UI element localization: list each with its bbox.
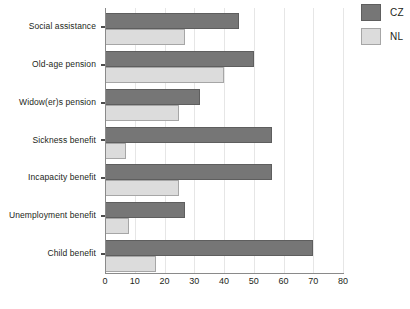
category-label: Incapacity benefit — [28, 172, 96, 182]
bar-group — [105, 235, 343, 273]
bar-group — [105, 197, 343, 235]
bar-group — [105, 122, 343, 160]
x-tick-label: 0 — [102, 276, 107, 286]
bar-nl — [105, 105, 179, 121]
bar-group — [105, 159, 343, 197]
legend-swatch-nl-icon — [361, 28, 381, 45]
legend-label: NL — [390, 31, 403, 42]
y-axis-line — [105, 8, 106, 274]
bar-nl — [105, 218, 129, 234]
x-tick-label: 40 — [219, 276, 229, 286]
legend-swatch-cz-icon — [361, 4, 381, 21]
bar-groups — [105, 8, 343, 273]
x-tick-label: 80 — [338, 276, 348, 286]
plot-area — [105, 8, 343, 273]
category-axis-labels: Social assistanceOld-age pensionWidow(er… — [0, 8, 101, 273]
x-tick-label: 60 — [278, 276, 288, 286]
bar-group — [105, 46, 343, 84]
bar-nl — [105, 67, 224, 83]
x-tick-label: 30 — [189, 276, 199, 286]
bar-cz — [105, 240, 313, 256]
bar-nl — [105, 143, 126, 159]
bar-nl — [105, 180, 179, 196]
category-label: Sickness benefit — [33, 135, 97, 145]
bar-cz — [105, 89, 200, 105]
bar-chart: Social assistanceOld-age pensionWidow(er… — [0, 0, 410, 309]
category-label: Child benefit — [47, 248, 96, 258]
bar-cz — [105, 202, 185, 218]
bar-group — [105, 84, 343, 122]
x-tick-label: 70 — [308, 276, 318, 286]
category-label: Social assistance — [29, 21, 96, 31]
category-label: Unemployment benefit — [9, 210, 96, 220]
x-axis-tick-labels: 01020304050607080 — [105, 276, 344, 292]
x-tick-label: 20 — [159, 276, 169, 286]
x-tick-label: 10 — [130, 276, 140, 286]
x-tick-label: 50 — [249, 276, 259, 286]
bar-cz — [105, 164, 272, 180]
bar-nl — [105, 29, 185, 45]
legend-item-cz[interactable]: CZ — [361, 4, 404, 21]
bar-nl — [105, 256, 156, 272]
bar-cz — [105, 51, 254, 67]
gridline-80 — [343, 8, 344, 273]
bar-cz — [105, 127, 272, 143]
x-axis-line — [105, 273, 344, 274]
category-label: Old-age pension — [32, 59, 96, 69]
bar-group — [105, 8, 343, 46]
category-label: Widow(er)s pension — [19, 97, 96, 107]
legend-item-nl[interactable]: NL — [361, 28, 404, 45]
chart-legend: CZNL — [361, 4, 404, 45]
legend-label: CZ — [390, 7, 404, 18]
bar-cz — [105, 13, 239, 29]
